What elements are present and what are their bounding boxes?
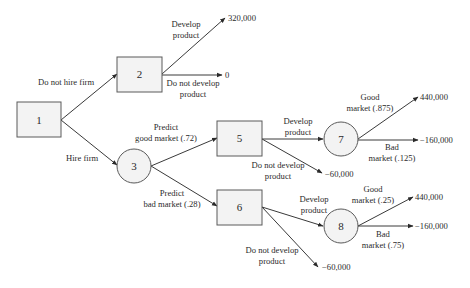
edge-label-develop-5: product [285, 127, 312, 137]
node-1: 1 [17, 102, 61, 137]
payoff-value: −60,000 [325, 169, 353, 179]
node-label: 3 [131, 160, 137, 172]
edge-label-not-develop-2: Do not develop [167, 78, 220, 88]
edge-label-predict-good: Predict [154, 122, 179, 132]
node-5: 5 [217, 121, 262, 156]
edge-label-not-develop-2: product [180, 89, 207, 99]
edge-label-bad-125: market (.125) [369, 153, 416, 163]
edge-label-not-develop-5: product [265, 171, 292, 181]
node-label: 8 [338, 220, 344, 232]
node-2: 2 [117, 57, 162, 92]
node-label: 7 [338, 133, 344, 145]
edge-label-predict-bad: bad market (.28) [143, 199, 200, 209]
edge-label-develop-5: Develop [283, 116, 312, 126]
edge-label-bad-75: market (.75) [362, 240, 405, 250]
edge-label-develop-6: Develop [299, 194, 328, 204]
edge-label-predict-good: good market (.72) [135, 133, 197, 143]
node-6: 6 [217, 190, 262, 225]
edge-label-hire: Hire firm [66, 153, 99, 163]
node-label: 5 [237, 132, 243, 144]
node-label: 2 [137, 68, 143, 80]
node-3: 3 [117, 149, 151, 183]
payoff-value: −160,000 [415, 221, 448, 231]
edge-label-not-develop-5: Do not develop [252, 160, 305, 170]
node-label: 1 [36, 114, 42, 126]
edge-label-develop-6: product [301, 205, 328, 215]
payoff-value: 0 [225, 70, 229, 80]
edge-label-good-25: Good [363, 184, 383, 194]
edge-label-do-not-hire: Do not hire firm [38, 77, 94, 87]
node-label: 6 [237, 201, 243, 213]
edge-label-develop-2: Develop [171, 19, 200, 29]
edge-label-develop-2: product [173, 30, 200, 40]
payoff-value: −60,000 [322, 262, 350, 272]
payoff-value: 440,000 [420, 92, 448, 102]
node-8: 8 [324, 209, 358, 243]
payoff-value: −160,000 [420, 135, 453, 145]
edge-label-good-875: market (.875) [347, 103, 394, 113]
edge-label-bad-75: Bad [376, 229, 391, 239]
edge-label-not-develop-6: Do not develop [246, 245, 299, 255]
payoff-value: 320,000 [228, 13, 256, 23]
node-7: 7 [324, 122, 358, 156]
edge-label-good-875: Good [360, 92, 380, 102]
edge-label-good-25: market (.25) [352, 195, 395, 205]
decision-tree-diagram: 1 2 3 5 6 7 8 Do not hire firm Hire firm… [0, 0, 470, 288]
edge-label-not-develop-6: product [259, 256, 286, 266]
edge-label-predict-bad: Predict [160, 188, 185, 198]
edge-label-bad-125: Bad [385, 142, 400, 152]
payoff-value: 440,000 [415, 192, 443, 202]
